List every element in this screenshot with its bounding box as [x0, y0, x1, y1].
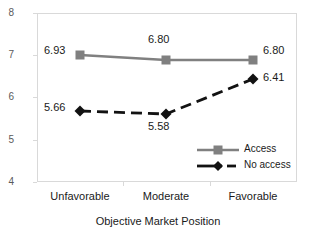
series-access: [76, 51, 258, 65]
series-access-marker-1: [162, 56, 171, 65]
data-label-no-access-favorable: 6.41: [263, 71, 284, 83]
legend-entry-access[interactable]: Access: [196, 140, 292, 156]
series-no-access: [75, 74, 259, 120]
legend-key-access: [196, 142, 240, 154]
data-label-no-access-moderate: 5.58: [148, 120, 169, 132]
x-axis-title: Objective Market Position: [0, 215, 316, 228]
legend-label-access: Access: [240, 143, 276, 154]
series-no-access-marker-2: [248, 74, 259, 85]
data-label-access-unfavorable: 6.93: [44, 44, 65, 56]
legend-marker-no-access: [213, 161, 223, 171]
series-no-access-line: [80, 79, 253, 114]
data-label-no-access-unfavorable: 5.66: [44, 101, 65, 113]
series-no-access-marker-0: [75, 106, 86, 117]
data-label-access-favorable: 6.80: [263, 44, 284, 56]
line-chart-figure: 8 7 6 5 4 6.93 6.80 6.80 5.66 5.58 6.41: [0, 0, 316, 237]
legend: Access No access: [196, 140, 292, 172]
series-no-access-marker-1: [161, 109, 172, 120]
series-access-marker-0: [76, 51, 85, 60]
legend-label-no-access: No access: [240, 159, 291, 170]
legend-marker-access: [214, 146, 223, 155]
data-label-access-moderate: 6.80: [148, 33, 169, 45]
legend-key-no-access: [196, 158, 240, 170]
series-access-marker-2: [249, 56, 258, 65]
legend-entry-no-access[interactable]: No access: [196, 156, 292, 172]
x-tick-label-favorable: Favorable: [197, 190, 309, 203]
